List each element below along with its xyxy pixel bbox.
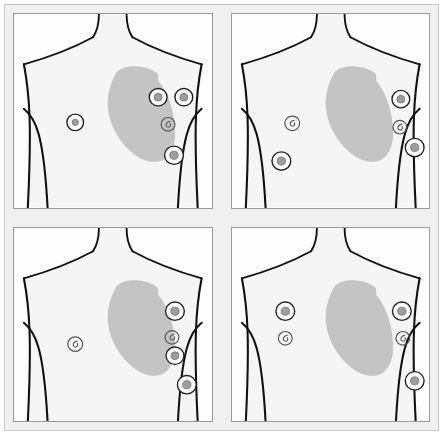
electrode-core — [183, 380, 191, 388]
panel-top-right-electrode-v4[interactable] — [271, 152, 290, 170]
panel-top-right-electrode-v2[interactable] — [391, 90, 409, 107]
panel-bottom-left-electrode-v4[interactable] — [166, 347, 184, 364]
panel-bottom-right-electrode-v3[interactable] — [392, 302, 411, 320]
panel-top-right-electrode-v5[interactable] — [405, 138, 424, 156]
panel-top-left-electrode-v2[interactable] — [149, 88, 167, 105]
panel-top-left-torso-diagram — [14, 14, 212, 208]
panel-bottom-right-electrode-v5[interactable] — [405, 371, 424, 389]
ecg-electrode-placement-figure — [0, 0, 443, 435]
panel-bottom-right-electrode-v1[interactable] — [275, 302, 294, 320]
panel-top-left-electrode-v3[interactable] — [175, 88, 193, 105]
electrode-core — [281, 307, 289, 315]
panel-top-left-electrode-v1[interactable] — [67, 114, 84, 130]
panel-bottom-left-torso-diagram — [14, 228, 212, 422]
panel-top-left-electrode-v5[interactable] — [165, 146, 184, 164]
electrode-core — [397, 307, 405, 315]
electrode-core — [396, 95, 404, 103]
panel-top-right — [222, 4, 440, 218]
panel-bottom-left — [4, 218, 222, 432]
panel-bottom-left-electrode-v5[interactable] — [177, 375, 196, 393]
electrode-core — [410, 376, 418, 384]
electrode-core — [277, 157, 285, 165]
electrode-core — [180, 93, 188, 101]
electrode-core — [410, 143, 418, 151]
panel-bottom-left-inner-frame — [13, 227, 213, 423]
panel-top-right-inner-frame — [231, 13, 431, 209]
panel-bottom-right-inner-frame — [231, 227, 431, 423]
electrode-core — [170, 151, 178, 159]
panel-grid — [4, 4, 439, 431]
electrode-core — [171, 351, 179, 359]
panel-bottom-right — [222, 218, 440, 432]
electrode-core — [154, 93, 162, 101]
panel-top-left — [4, 4, 222, 218]
panel-top-left-inner-frame — [13, 13, 213, 209]
panel-top-right-torso-diagram — [232, 14, 430, 208]
electrode-core — [72, 119, 78, 125]
panel-bottom-left-electrode-v2[interactable] — [166, 302, 185, 320]
electrode-core — [171, 307, 179, 315]
panel-bottom-right-torso-diagram — [232, 228, 430, 422]
